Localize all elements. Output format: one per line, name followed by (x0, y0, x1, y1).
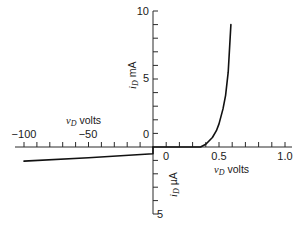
forward-bias-curve (153, 25, 231, 147)
diode-iv-chart: 10 5 0 −100 −50 0 0.5 1.0 5 vDvolts vDvo… (0, 0, 301, 230)
x-tick-neg50: −50 (79, 128, 98, 140)
y-tick-5: 5 (143, 72, 149, 84)
axes (15, 11, 292, 214)
x-axis-title-right: vDvolts (214, 163, 249, 177)
y-tick-0-mA: 0 (143, 128, 149, 140)
x-tick-1-0: 1.0 (277, 150, 292, 162)
tick-marks (24, 11, 285, 214)
x-axis-title-left: vDvolts (66, 114, 101, 128)
reverse-bias-curve (24, 147, 153, 161)
y-tick-5-uA: 5 (157, 208, 163, 220)
x-tick-0-5: 0.5 (211, 150, 226, 162)
y-tick-10: 10 (137, 5, 149, 17)
x-tick-neg100: −100 (12, 128, 37, 140)
tick-labels: 10 5 0 −100 −50 0 0.5 1.0 5 (12, 5, 293, 220)
y-axis-title-uA: iDµA (167, 172, 181, 197)
x-tick-0: 0 (163, 150, 169, 162)
y-axis-title-mA: iDmA (126, 62, 140, 89)
